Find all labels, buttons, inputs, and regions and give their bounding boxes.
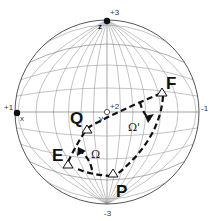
point-label-E: E — [52, 146, 63, 165]
arc-P-E — [75, 168, 112, 176]
angle-label-omega-prime: Ω' — [128, 121, 140, 134]
angle-label-omega: Ω — [91, 148, 100, 161]
label-plus1: +1 — [4, 103, 14, 112]
label-x: x — [20, 114, 24, 123]
z-pole-marker — [104, 18, 110, 24]
label-z: z — [98, 22, 102, 31]
label-plus3: +3 — [110, 8, 120, 17]
y-pole-marker — [104, 109, 109, 114]
triangle-E — [63, 160, 73, 168]
triangle-P — [108, 169, 118, 177]
point-label-Q: Q — [70, 109, 83, 128]
wulff-net-svg: +3 z -3 +1 x -1 +2 y F Q E P Ω' Ω — [0, 0, 214, 221]
stereographic-projection-diagram: +3 z -3 +1 x -1 +2 y F Q E P Ω' Ω — [0, 0, 214, 221]
label-plus2: +2 — [110, 102, 120, 111]
arc-Q-F — [87, 93, 162, 128]
label-minus1: -1 — [201, 104, 209, 113]
point-label-F: F — [166, 74, 176, 93]
label-minus3: -3 — [104, 209, 112, 218]
point-label-P: P — [116, 182, 127, 201]
omega-arrowhead-icon — [77, 147, 86, 156]
